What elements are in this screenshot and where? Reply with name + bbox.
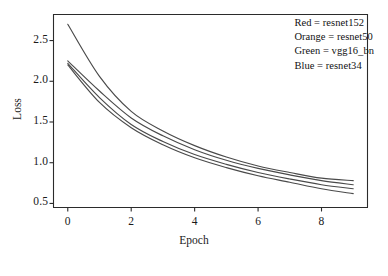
x-tick-label: 0 xyxy=(53,215,83,227)
x-tick-marks xyxy=(68,208,322,212)
legend-entry: Green = vgg16_bn xyxy=(294,44,374,58)
legend-entry: Red = resnet152 xyxy=(294,16,374,30)
x-axis-label: Epoch xyxy=(0,234,388,246)
legend-entry: Blue = resnet34 xyxy=(294,59,374,73)
y-tick-label: 2.5 xyxy=(18,33,48,45)
y-axis-label: Loss xyxy=(11,74,23,144)
legend: Red = resnet152Orange = resnet50Green = … xyxy=(294,16,374,73)
x-tick-label: 8 xyxy=(307,215,337,227)
x-tick-label: 6 xyxy=(243,215,273,227)
y-tick-marks xyxy=(50,41,54,204)
series-line-vgg16_bn xyxy=(68,63,353,188)
series-line-resnet50 xyxy=(68,61,353,185)
loss-vs-epoch-chart: 0.51.01.52.02.5 02468 Loss Epoch Red = r… xyxy=(0,0,388,276)
x-tick-label: 4 xyxy=(180,215,210,227)
y-tick-label: 0.5 xyxy=(18,195,48,207)
x-tick-label: 2 xyxy=(116,215,146,227)
y-tick-label: 1.0 xyxy=(18,155,48,167)
legend-entry: Orange = resnet50 xyxy=(294,30,374,44)
series-line-resnet34 xyxy=(68,65,353,194)
